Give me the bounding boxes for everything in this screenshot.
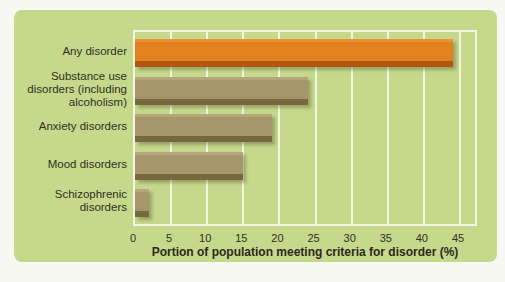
category-label-substance-use-disorders-including-alcoholism: Substance use disorders (including alcoh…	[22, 70, 127, 109]
x-tick-label-5: 5	[154, 232, 184, 244]
x-tick-label-20: 20	[262, 232, 292, 244]
x-tick-label-15: 15	[226, 232, 256, 244]
x-tick-label-30: 30	[335, 232, 365, 244]
gridline-45	[459, 32, 461, 224]
x-axis-title: Portion of population meeting criteria f…	[124, 245, 486, 259]
figure-card: Any disorderSubstance use disorders (inc…	[14, 10, 497, 262]
bar-any-disorder	[135, 39, 453, 67]
x-tick-label-0: 0	[118, 232, 148, 244]
category-label-anxiety-disorders: Anxiety disorders	[22, 120, 127, 133]
bar-anxiety-disorders	[135, 114, 272, 142]
category-label-any-disorder: Any disorder	[22, 45, 127, 58]
x-tick-label-10: 10	[190, 232, 220, 244]
x-tick-label-35: 35	[371, 232, 401, 244]
plot-area	[133, 30, 477, 226]
bar-schizophrenic-disorders	[135, 189, 149, 217]
bar-mood-disorders	[135, 152, 243, 180]
category-label-schizophrenic-disorders: Schizophrenic disorders	[22, 188, 127, 214]
page: Any disorderSubstance use disorders (inc…	[0, 0, 505, 282]
category-label-mood-disorders: Mood disorders	[22, 158, 127, 171]
x-tick-label-45: 45	[443, 232, 473, 244]
x-tick-label-40: 40	[407, 232, 437, 244]
x-tick-label-25: 25	[299, 232, 329, 244]
bar-substance-use-disorders-including-alcoholism	[135, 77, 308, 105]
